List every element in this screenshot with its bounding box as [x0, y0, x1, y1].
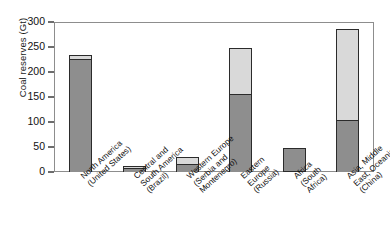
- x-axis-label-3: Western Europe(Serbia andMontenegro): [185, 174, 204, 195]
- x-axis-label-line: (United States): [85, 181, 91, 188]
- x-axis-label-line: Africa): [305, 188, 311, 195]
- y-axis-tick-label: 150: [27, 90, 45, 102]
- y-axis-tick-label: 50: [33, 140, 45, 152]
- bar-4: [229, 48, 252, 172]
- x-axis-label-line: Montenegro): [198, 188, 204, 195]
- x-axis-label-6: Asia, MiddleEast, Oceania(China): [345, 174, 364, 195]
- coal-reserves-bar-chart: Coal reserves (Gt) 050100150200250300 No…: [0, 0, 390, 251]
- bar-6: [336, 29, 359, 172]
- x-axis-label-1: North America(United States): [79, 174, 92, 188]
- bar-segment-lower: [69, 59, 92, 173]
- bar-segment-upper: [229, 48, 252, 95]
- x-axis-label-4: EasternEurope(Russia): [239, 174, 258, 195]
- y-axis-tick-label: 250: [27, 40, 45, 52]
- x-axis-label-line: (Russia): [251, 188, 257, 195]
- y-axis-tick-label: 0: [39, 165, 45, 177]
- y-axis-tick-label: 200: [27, 65, 45, 77]
- bar-segment-upper: [336, 29, 359, 121]
- y-axis-tick-label: 300: [27, 15, 45, 27]
- y-axis-title: Coal reserves (Gt): [17, 0, 28, 128]
- x-axis-labels: North America(United States)Central andS…: [54, 174, 374, 251]
- x-axis-label-2: Central andSouth America(Brazil): [132, 174, 151, 195]
- x-axis-label-line: (Brazil): [145, 188, 151, 195]
- y-axis-tick-label: 100: [27, 115, 45, 127]
- x-axis-label-line: (China): [358, 188, 364, 195]
- x-axis-label-5: Africa(SouthAfrica): [292, 174, 311, 195]
- bar-1: [69, 55, 92, 172]
